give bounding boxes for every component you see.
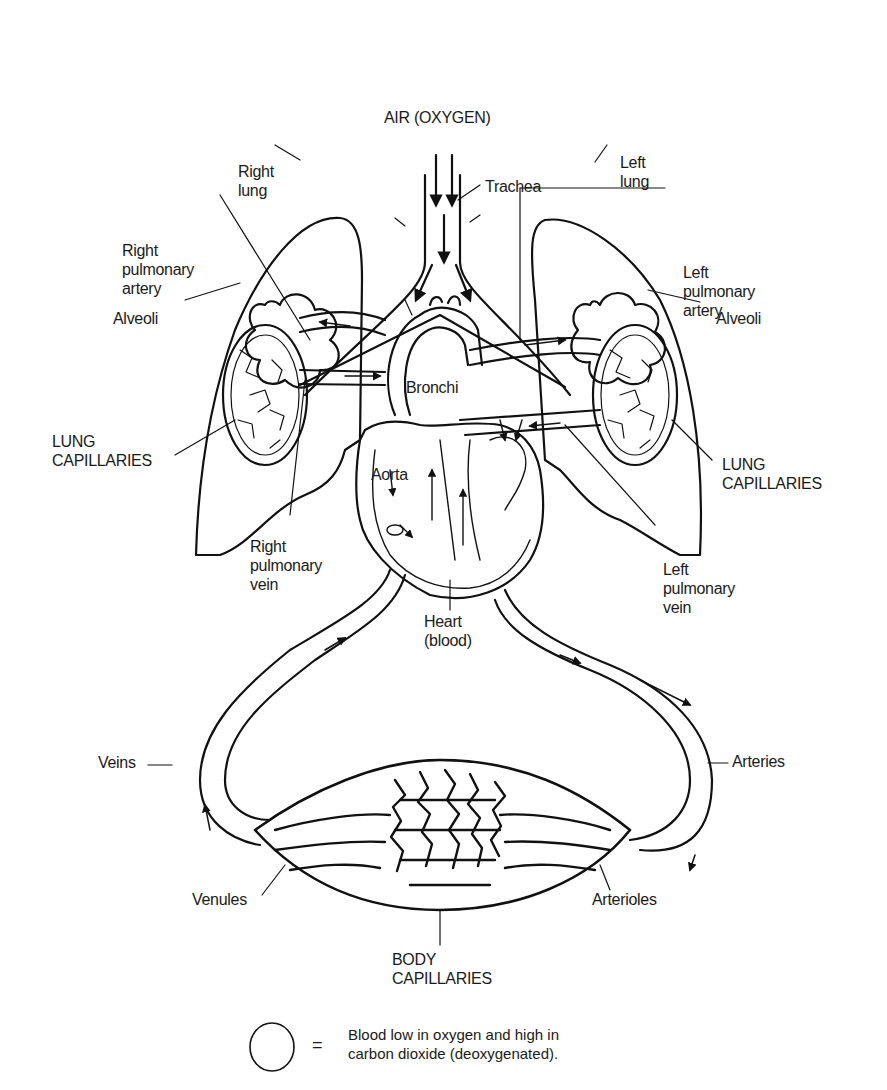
label-right-pulmonary-artery: Right pulmonary artery bbox=[122, 241, 194, 298]
legend-text-line1: Blood low in oxygen and high in bbox=[348, 1026, 559, 1044]
body-capillaries-bed bbox=[255, 760, 630, 910]
label-veins: Veins bbox=[98, 753, 136, 772]
label-arterioles: Arterioles bbox=[592, 890, 657, 909]
label-lung-capillaries-left: LUNG CAPILLARIES bbox=[722, 455, 822, 493]
legend-equals: = bbox=[312, 1035, 323, 1056]
label-venules: Venules bbox=[192, 890, 247, 909]
left-lung-outline bbox=[532, 220, 701, 555]
circulatory-diagram bbox=[0, 0, 887, 1090]
label-left-lung: Left lung bbox=[620, 153, 649, 191]
label-arteries: Arteries bbox=[732, 752, 785, 771]
label-left-pulmonary-vein: Left pulmonary vein bbox=[663, 560, 735, 617]
label-right-lung: Right lung bbox=[238, 162, 274, 200]
right-lung-outline bbox=[196, 218, 362, 555]
label-aorta: Aorta bbox=[371, 465, 408, 484]
label-lung-capillaries-right: LUNG CAPILLARIES bbox=[52, 432, 152, 470]
label-bronchi: Bronchi bbox=[406, 378, 458, 397]
label-alveoli-left: Alveoli bbox=[716, 309, 761, 328]
label-body-capillaries: BODY CAPILLARIES bbox=[392, 950, 492, 988]
legend-circle-icon bbox=[250, 1023, 294, 1071]
lung-capillaries-left bbox=[593, 325, 677, 465]
label-air-oxygen: AIR (OXYGEN) bbox=[384, 108, 491, 127]
label-heart-blood: Heart (blood) bbox=[424, 612, 472, 650]
label-alveoli-right: Alveoli bbox=[113, 309, 158, 328]
label-trachea: Trachea bbox=[485, 177, 541, 196]
heart-outline bbox=[356, 422, 543, 598]
legend-text-line2: carbon dioxide (deoxygenated). bbox=[348, 1045, 558, 1063]
lung-capillaries-right bbox=[223, 325, 307, 465]
label-right-pulmonary-vein: Right pulmonary vein bbox=[250, 537, 322, 594]
